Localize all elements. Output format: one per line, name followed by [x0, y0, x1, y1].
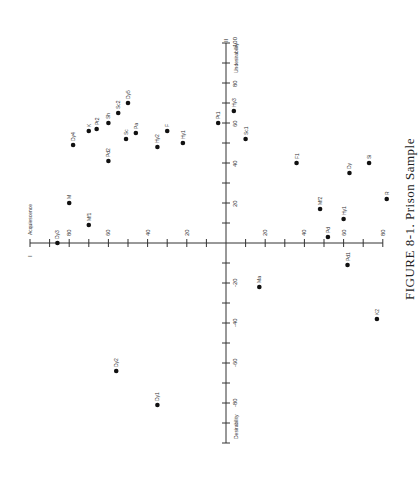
data-point — [165, 129, 170, 134]
point-label: Dy — [346, 162, 352, 169]
data-point — [116, 111, 121, 116]
x-tick-label: 60 — [341, 229, 347, 236]
data-point — [243, 137, 248, 142]
data-point — [216, 121, 221, 126]
axis-label-roman-one: I — [27, 255, 33, 257]
x-tick-label: 60 — [105, 229, 111, 236]
point-label: Hy1 — [180, 130, 186, 139]
point-label: Dy5 — [125, 90, 131, 99]
point-label: F1 — [294, 153, 300, 159]
x-tick-label: 80 — [380, 229, 386, 236]
data-point — [155, 145, 160, 150]
x-tick-label: 80 — [66, 229, 72, 236]
point-label: Dy4 — [70, 132, 76, 141]
point-label: Si — [366, 155, 372, 159]
point-label: Pd — [325, 227, 331, 233]
x-tick-label: 40 — [145, 229, 151, 236]
axis-label-undesirability: Undesirability — [233, 42, 239, 73]
data-point — [134, 131, 139, 136]
y-tick-label: -80 — [232, 398, 238, 407]
scatter-chart: 806040202040608010080604020-20-40-60-80A… — [0, 0, 419, 477]
point-label: Pa — [133, 123, 139, 129]
point-label: Hy1 — [341, 206, 347, 215]
data-point — [71, 143, 76, 148]
data-point — [114, 369, 119, 374]
point-label: Sc — [123, 129, 129, 135]
data-point — [367, 161, 372, 166]
y-tick-label: 60 — [232, 120, 238, 127]
y-tick-label: -20 — [232, 278, 238, 287]
point-label: K2 — [374, 309, 380, 315]
point-label: Dy1 — [154, 392, 160, 401]
point-label: R — [384, 191, 390, 195]
point-label: Pd2 — [105, 148, 111, 157]
data-point — [87, 129, 92, 134]
x-tick-label: 20 — [262, 229, 268, 236]
axis-label-acquiescence: Acquiescence — [27, 204, 33, 235]
data-point — [257, 285, 262, 290]
data-point — [294, 161, 299, 166]
data-point — [87, 223, 92, 228]
figure-caption: FIGURE 8-1. Prison Sample — [402, 138, 418, 300]
data-point — [345, 263, 350, 268]
data-point — [232, 109, 237, 114]
data-point — [318, 207, 323, 212]
point-label: Mf2 — [317, 196, 323, 205]
y-tick-label: 40 — [232, 160, 238, 167]
point-label: Hy3 — [231, 98, 237, 107]
data-point — [375, 317, 380, 322]
data-point — [326, 235, 331, 240]
data-point — [341, 217, 346, 222]
point-label: Pt1 — [215, 111, 221, 119]
data-point — [106, 159, 111, 164]
point-label: Ma — [256, 276, 262, 283]
data-point — [181, 141, 186, 146]
point-label: K — [86, 123, 92, 127]
data-point — [124, 137, 129, 142]
y-tick-label: -60 — [232, 358, 238, 367]
data-point — [155, 403, 160, 408]
y-tick-label: 20 — [232, 200, 238, 207]
point-label: Sc2 — [115, 100, 121, 109]
data-point — [384, 197, 389, 202]
point-label: Dy3 — [54, 230, 60, 239]
point-label: Dy2 — [113, 358, 119, 367]
point-label: Mf1 — [86, 212, 92, 221]
y-tick-label: -40 — [232, 318, 238, 327]
y-tick-label: 80 — [232, 80, 238, 87]
data-point — [106, 121, 111, 126]
point-label: Hy2 — [154, 134, 160, 143]
point-label: Sc1 — [243, 126, 249, 135]
data-point — [347, 171, 352, 176]
point-label: Pt2 — [94, 117, 100, 125]
point-label: M — [66, 195, 72, 199]
point-label: F — [164, 124, 170, 127]
data-point — [67, 201, 72, 206]
x-tick-label: 20 — [184, 229, 190, 236]
axis-label-desirability: Desirability — [233, 414, 239, 439]
data-point — [94, 127, 99, 132]
point-label: Sh — [105, 113, 111, 119]
point-label: Pd1 — [345, 252, 351, 261]
axis-label-roman-two: II — [223, 38, 229, 42]
x-tick-label: 40 — [301, 229, 307, 236]
data-point — [126, 101, 131, 106]
data-point — [55, 241, 60, 246]
